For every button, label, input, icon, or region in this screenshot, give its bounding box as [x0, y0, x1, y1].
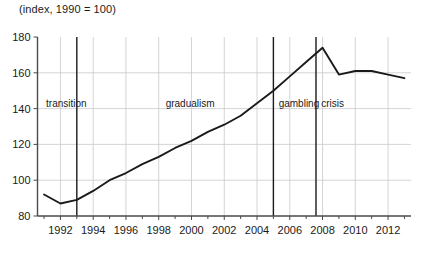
x-tick-label: 2002 [212, 224, 236, 236]
chart-container: (index, 1990 = 100) 80100120140160180 19… [0, 0, 426, 256]
x-tick-label: 2000 [179, 224, 203, 236]
phase-label-transition: transition [46, 98, 87, 109]
y-tick-label: 180 [12, 31, 30, 43]
x-tick-label: 2006 [278, 224, 302, 236]
x-tick-label: 2004 [245, 224, 269, 236]
phase-annotation-labels: transitiongradualismgamblingcrisis [46, 98, 344, 109]
x-tick-label: 1998 [146, 224, 170, 236]
x-axis-tick-labels: 1992199419961998200020022004200620082010… [48, 224, 400, 236]
y-tick-label: 100 [12, 174, 30, 186]
y-tick-label: 120 [12, 138, 30, 150]
x-tick-label: 2010 [343, 224, 367, 236]
phase-label-gambling: gambling [279, 98, 320, 109]
y-tick-label: 140 [12, 103, 30, 115]
y-axis-tick-labels: 80100120140160180 [12, 31, 30, 222]
phase-label-gradualism: gradualism [166, 98, 215, 109]
phase-divider-lines [77, 37, 316, 216]
x-tick-label: 1992 [48, 224, 72, 236]
x-tick-label: 2012 [376, 224, 400, 236]
vertical-gridlines [60, 37, 388, 216]
phase-label-crisis: crisis [321, 98, 344, 109]
x-tick-label: 2008 [310, 224, 334, 236]
chart-plot-area: 80100120140160180 1992199419961998200020… [0, 0, 426, 256]
y-tick-label: 80 [18, 210, 30, 222]
x-tick-label: 1994 [81, 224, 105, 236]
x-tick-label: 1996 [114, 224, 138, 236]
y-tick-label: 160 [12, 67, 30, 79]
